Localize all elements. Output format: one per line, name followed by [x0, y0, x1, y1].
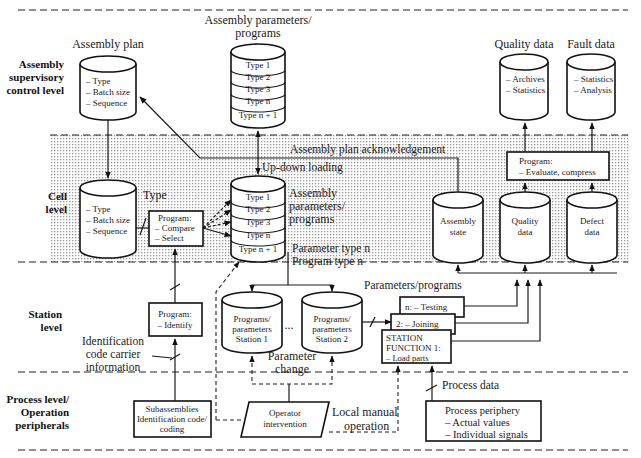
svg-text:Identification: Identification: [82, 335, 144, 347]
svg-text:– Type: – Type: [85, 76, 110, 86]
svg-text:– Type: – Type: [85, 204, 110, 214]
station-function-1-box: STATION FUNCTION 1: – Load parts: [382, 330, 451, 363]
svg-text:– Sequence: – Sequence: [85, 226, 127, 236]
svg-text:Parameter: Parameter: [268, 349, 317, 363]
svg-text:– Individual signals: – Individual signals: [444, 429, 528, 440]
svg-text:– Identify: – Identify: [156, 320, 193, 330]
svg-text:intervention: intervention: [263, 419, 307, 429]
svg-text:– Load parts: – Load parts: [385, 353, 429, 363]
param-type-label: Parameter type n: [292, 242, 370, 255]
svg-text:– Evaluate, compress: – Evaluate, compress: [518, 167, 596, 177]
params-programs-label: Parameters/programs: [364, 279, 462, 292]
svg-text:level: level: [46, 203, 67, 215]
ellipsis: ...: [285, 318, 294, 332]
svg-text:parameters/: parameters/: [289, 199, 346, 213]
svg-text:data: data: [585, 227, 600, 237]
program-type-label: Program type n: [292, 255, 363, 268]
svg-text:peripherals: peripherals: [15, 419, 69, 431]
svg-text:parameters: parameters: [312, 324, 352, 334]
cell-quality-data-db: Quality data: [500, 192, 550, 263]
program-identify-box: Program: – Identify: [149, 303, 202, 336]
svg-text:Quality data: Quality data: [495, 37, 555, 51]
svg-text:operation: operation: [344, 419, 389, 433]
svg-text:parameters: parameters: [232, 324, 272, 334]
svg-text:Type 3: Type 3: [246, 84, 271, 94]
subassemblies-box: Subassemblies Identification code/ codin…: [134, 401, 211, 437]
svg-text:Type 1: Type 1: [246, 192, 271, 202]
cell-assembly-plan-db: – Type – Batch size – Sequence: [80, 180, 136, 258]
id-code-label: Identification code carrier information: [82, 335, 144, 373]
process-periphery-box: Process periphery – Actual values – Indi…: [426, 401, 541, 441]
program-compare-box: Program: – Compare – Select: [149, 211, 203, 246]
program-evaluate-box: Program: – Evaluate, compress: [507, 152, 609, 180]
station1-db: Programs/ parameters Station 1: [222, 292, 282, 353]
svg-text:data: data: [518, 227, 533, 237]
cell-params-db: Type 1 Type 2 Type 3 Type n Type n + 1: [231, 176, 285, 262]
assembly-params-db: Assembly parameters/ programs Type 1 Typ…: [205, 13, 313, 128]
svg-text:Type 3: Type 3: [246, 217, 271, 227]
level-label-supervisory: Assembly supervisory control level: [6, 58, 64, 96]
station2-db: Programs/ parameters Station 2: [302, 292, 362, 353]
svg-text:Assembly: Assembly: [440, 216, 477, 226]
svg-text:Operator: Operator: [269, 408, 301, 418]
svg-text:n: – Testing: n: – Testing: [405, 302, 448, 312]
svg-text:– Sequence: – Sequence: [85, 98, 127, 108]
svg-text:coding: coding: [160, 424, 185, 434]
svg-text:Process periphery: Process periphery: [445, 405, 521, 416]
svg-text:Subassemblies: Subassemblies: [146, 404, 199, 414]
local-manual-label: Local manual operation: [332, 405, 398, 433]
operator-intervention-box: Operator intervention: [241, 402, 329, 437]
svg-text:Type 2: Type 2: [246, 72, 271, 82]
svg-text:Assembly parameters/: Assembly parameters/: [205, 13, 313, 27]
level-label-cell: Cell level: [46, 190, 67, 215]
svg-text:code carrier: code carrier: [86, 348, 141, 360]
svg-text:Local manual: Local manual: [332, 405, 398, 419]
svg-text:Operation: Operation: [21, 406, 69, 418]
svg-text:– Compare: – Compare: [154, 223, 195, 233]
svg-text:programs: programs: [235, 26, 281, 40]
svg-text:– Batch size: – Batch size: [85, 215, 130, 225]
svg-text:Program:: Program:: [158, 213, 192, 223]
svg-text:Programs/: Programs/: [234, 314, 271, 324]
svg-text:– Actual values: – Actual values: [444, 417, 510, 428]
svg-text:Assembly: Assembly: [289, 186, 337, 200]
svg-text:– Batch size: – Batch size: [85, 87, 130, 97]
svg-text:– Statistics: – Statistics: [505, 85, 546, 95]
svg-text:Programs/: Programs/: [314, 314, 351, 324]
svg-text:Defect: Defect: [580, 216, 604, 226]
svg-text:state: state: [450, 227, 467, 237]
defect-data-db: Defect data: [567, 192, 617, 263]
svg-text:– Statistics: – Statistics: [573, 74, 614, 84]
svg-text:Process level/: Process level/: [7, 393, 70, 405]
process-data-label: Process data: [442, 379, 499, 391]
svg-text:Identification code/: Identification code/: [137, 414, 208, 424]
svg-text:Fault data: Fault data: [567, 37, 615, 51]
svg-text:Type n + 1: Type n + 1: [239, 110, 278, 120]
svg-text:Cell: Cell: [48, 190, 67, 202]
level-label-process: Process level/ Operation peripherals: [7, 393, 70, 431]
level-label-station: Station level: [28, 308, 62, 333]
svg-text:Quality: Quality: [512, 216, 539, 226]
svg-text:– Analysis: – Analysis: [573, 85, 612, 95]
svg-text:FUNCTION 1:: FUNCTION 1:: [386, 343, 441, 353]
svg-text:– Archives: – Archives: [505, 74, 545, 84]
svg-text:Station: Station: [28, 308, 62, 320]
svg-text:Type 1: Type 1: [246, 60, 271, 70]
ack-label: Assembly plan acknowledgement: [290, 143, 446, 156]
svg-text:Program:: Program:: [519, 156, 553, 166]
svg-text:Type n + 1: Type n + 1: [239, 244, 278, 254]
svg-text:Assembly plan: Assembly plan: [72, 37, 144, 51]
quality-data-db: Quality data – Archives – Statistics: [495, 37, 555, 120]
svg-text:Station 1: Station 1: [236, 334, 268, 344]
svg-text:– Select: – Select: [154, 233, 184, 243]
svg-text:information: information: [86, 361, 141, 373]
svg-text:Type 2: Type 2: [246, 204, 271, 214]
svg-text:change: change: [275, 362, 309, 376]
svg-text:programs: programs: [289, 212, 335, 226]
fault-data-db: Fault data – Statistics – Analysis: [567, 37, 616, 120]
svg-text:supervisory: supervisory: [9, 71, 65, 83]
svg-text:Type n: Type n: [246, 230, 271, 240]
updown-label: Up-down loading: [262, 161, 343, 174]
svg-text:level: level: [41, 321, 62, 333]
svg-text:control level: control level: [6, 84, 64, 96]
